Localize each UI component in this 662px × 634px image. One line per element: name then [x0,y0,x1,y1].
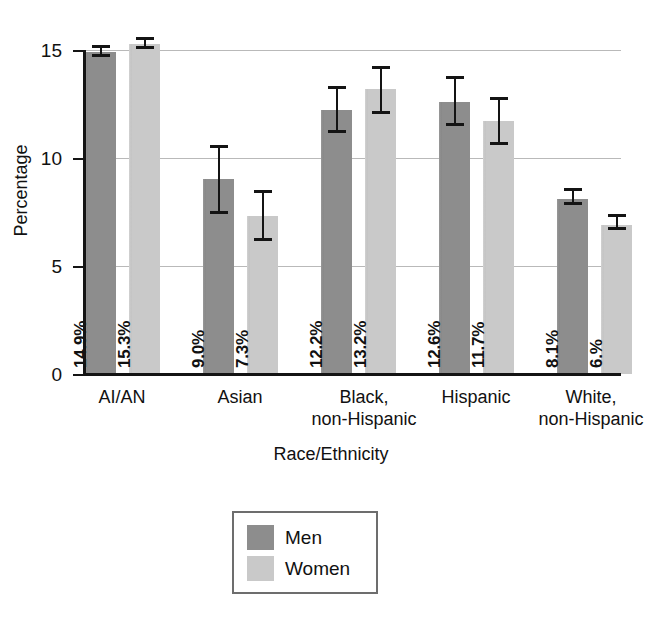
x-axis-line [83,373,621,376]
bar-value-label: 8.1% [553,349,573,387]
x-category-white-non-hispanic: White, non-Hispanic [520,386,662,430]
legend-label-men: Men [285,528,322,547]
y-axis-line [83,50,86,375]
x-category-asian: Asian [180,386,300,408]
errorbar-men-hispanic [446,76,464,126]
y-tick-label-0: 0 [26,365,62,384]
bar-men-black-non-hispanic: 12.2% [321,110,352,374]
y-tick-label-15: 15 [26,41,62,60]
y-tick-15 [73,50,84,52]
bar-men-hispanic: 12.6% [439,102,470,374]
errorbar-men-black-non-hispanic [328,86,346,133]
y-tick-5 [73,266,84,268]
bar-value-label: 13.2% [361,344,381,391]
y-tick-10 [73,158,84,160]
errorbar-women-black-non-hispanic [372,66,390,114]
errorbar-women-ai-an [136,37,154,49]
bar-women-hispanic: 11.7% [483,121,514,374]
gridline-5 [84,266,621,267]
x-category-hispanic: Hispanic [416,386,536,408]
bar-value-label: 12.6% [435,344,455,391]
x-category-line: Asian [180,386,300,408]
y-tick-label-10: 10 [26,149,62,168]
bar-women-ai-an: 15.3% [129,44,160,374]
bar-women-white-non-hispanic: 6.% [601,225,632,374]
bar-value-label: 15.3% [125,344,145,391]
x-category-ai-an: AI/AN [62,386,182,408]
chart-figure: 15 10 5 0 Percentage 14.9% 15.3% 9.0% [0,0,662,634]
gridline-15 [84,50,621,51]
bar-value-label: 6.% [597,354,617,383]
bar-men-white-non-hispanic: 8.1% [557,199,588,374]
legend-label-women: Women [285,559,350,578]
x-axis-title: Race/Ethnicity [0,444,662,465]
bar-women-black-non-hispanic: 13.2% [365,89,396,374]
errorbar-men-white-non-hispanic [564,188,582,205]
plot-area: 15 10 5 0 Percentage 14.9% 15.3% 9.0% [0,0,662,400]
x-category-line: Hispanic [416,386,536,408]
legend-swatch-men-icon [247,525,274,550]
x-category-line: non-Hispanic [290,408,438,430]
x-category-line: AI/AN [62,386,182,408]
gridline-10 [84,158,621,159]
errorbar-women-asian [254,190,272,241]
bar-value-label: 7.3% [243,349,263,387]
y-axis-title: Percentage [11,106,32,276]
y-tick-0 [73,374,84,376]
errorbar-men-ai-an [92,45,110,57]
legend-item-men: Men [247,522,376,553]
legend: Men Women [232,511,378,594]
legend-swatch-women-icon [247,556,274,581]
bar-value-label: 12.2% [317,344,337,391]
legend-item-women: Women [247,553,376,584]
errorbar-women-white-non-hispanic [608,214,626,230]
bar-value-label: 11.7% [479,345,499,391]
x-category-line: White, [520,386,662,408]
bar-value-label: 9.0% [199,349,219,387]
errorbar-men-asian [210,145,228,214]
bar-men-ai-an: 14.9% [85,52,116,374]
x-category-line: non-Hispanic [520,408,662,430]
errorbar-women-hispanic [490,97,508,145]
y-tick-label-5: 5 [26,257,62,276]
